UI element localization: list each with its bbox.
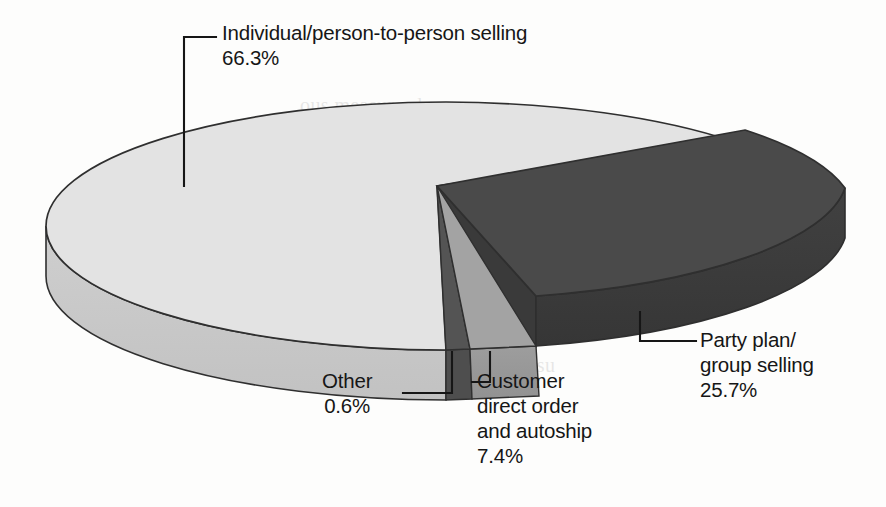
callout-customer-value: 7.4% <box>477 444 523 467</box>
callout-label-party: Party plan/group selling25.7% <box>700 327 814 402</box>
pie-chart-svg <box>0 0 886 507</box>
callout-party-value: 25.7% <box>700 378 757 401</box>
callout-label-customer: Customerdirect orderand autoship7.4% <box>477 368 592 468</box>
callout-label-individual: Individual/person-to-person selling66.3% <box>222 20 527 70</box>
callout-label-other: Other0.6% <box>322 368 372 418</box>
callout-customer-line1: Customer <box>477 369 564 392</box>
callout-other-line1: Other <box>322 369 372 392</box>
callout-customer-line3: and autoship <box>477 419 592 442</box>
callout-other-value: 0.6% <box>324 394 370 417</box>
callout-individual-value: 66.3% <box>222 46 279 69</box>
callout-party-line1: Party plan/ <box>700 328 796 351</box>
pie-chart-figure: ous measures have the direct marketing p… <box>0 0 886 507</box>
callout-customer-line2: direct order <box>477 394 578 417</box>
callout-individual-line1: Individual/person-to-person selling <box>222 21 527 44</box>
callout-party-line2: group selling <box>700 353 814 376</box>
